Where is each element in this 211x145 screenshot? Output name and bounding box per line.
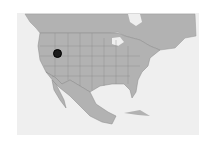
location-marker[interactable] [53,49,62,58]
map-frame [17,13,199,135]
cuba [124,110,150,116]
north-america-map [17,13,199,135]
